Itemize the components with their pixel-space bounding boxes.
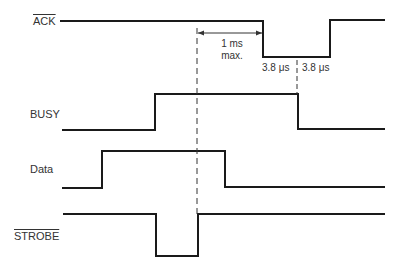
delay-annotation-line2: max. bbox=[212, 50, 252, 61]
signal-label-strobe: STROBE bbox=[14, 230, 59, 242]
arrowhead-left-icon bbox=[198, 31, 204, 36]
busy-waveform bbox=[62, 94, 385, 130]
delay-annotation-line1: 1 ms bbox=[212, 38, 252, 49]
signal-label-ack: ACK bbox=[33, 15, 56, 27]
data-waveform bbox=[62, 151, 385, 188]
strobe-waveform bbox=[63, 214, 385, 256]
ack-low-second-half-annotation: 3.8 μs bbox=[302, 62, 329, 73]
ack-low-first-half-annotation: 3.8 μs bbox=[262, 62, 289, 73]
timing-diagram-canvas bbox=[0, 0, 400, 272]
signal-label-busy: BUSY bbox=[30, 108, 60, 120]
arrowhead-right-icon bbox=[256, 31, 262, 36]
signal-label-data: Data bbox=[30, 163, 53, 175]
